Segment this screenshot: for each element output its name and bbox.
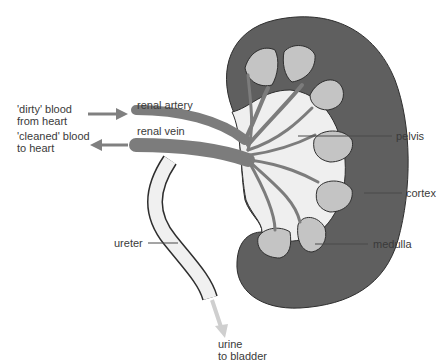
label-urine: urine to bladder	[218, 338, 267, 362]
kidney-diagram	[0, 0, 438, 363]
label-dirty-blood: 'dirty' blood from heart	[17, 103, 72, 127]
label-pelvis: pelvis	[396, 130, 424, 142]
urine-arrow-icon	[212, 300, 228, 338]
cleaned-blood-arrow-icon	[90, 139, 128, 151]
label-ureter: ureter	[114, 237, 143, 249]
label-medulla: medulla	[373, 238, 412, 250]
ureter	[155, 160, 210, 298]
label-cleaned-blood: 'cleaned' blood to heart	[17, 130, 90, 154]
label-renal-artery: renal artery	[137, 99, 193, 111]
dirty-blood-arrow-icon	[88, 108, 128, 120]
blood-flow-arrows	[88, 108, 128, 151]
label-cortex: cortex	[406, 187, 436, 199]
label-renal-vein: renal vein	[137, 125, 185, 137]
